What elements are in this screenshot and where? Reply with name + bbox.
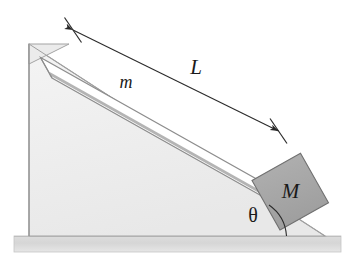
length-label-L: L [189,55,202,79]
angle-label-theta: θ [248,204,258,226]
plank-mass-label-m: m [120,72,133,92]
physics-diagram-figure: M L m θ [0,0,347,262]
ground-surface [14,236,341,252]
block-M-label: M [281,179,301,203]
ground-slab [14,236,341,252]
diagram-canvas: M L m θ [0,0,347,262]
